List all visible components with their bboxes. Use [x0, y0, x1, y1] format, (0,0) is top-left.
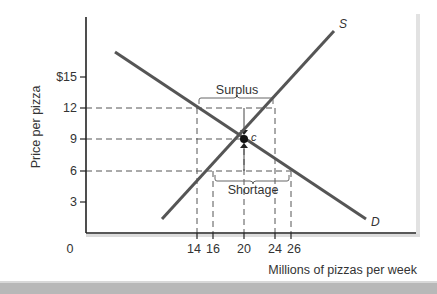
y-tick-label: 9 [70, 132, 77, 146]
y-tick-label: $15 [56, 70, 77, 84]
supply-demand-chart: $15 12 9 6 3 0 14 16 20 24 26 Millions o… [0, 0, 437, 294]
arrow-up-icon [240, 143, 248, 148]
x-axis-title: Millions of pizzas per week [268, 263, 417, 277]
y-ticks [80, 77, 86, 202]
guide-lines [86, 108, 291, 233]
shortage-label: Shortage [228, 183, 279, 197]
y-tick-label: 12 [63, 101, 77, 115]
panel-shadow-right [416, 14, 420, 236]
surplus-label: Surplus [216, 83, 258, 97]
x-tick-label: 24 [268, 242, 282, 256]
panel-shadow-bottom [86, 234, 420, 237]
x-tick-label: 14 [187, 242, 201, 256]
chart-panel: $15 12 9 6 3 0 14 16 20 24 26 Millions o… [0, 0, 437, 294]
y-tick-label: 6 [70, 164, 77, 178]
x-tick-label: 20 [237, 242, 251, 256]
x-tick-label: 26 [287, 242, 301, 256]
supply-label: S [339, 17, 347, 31]
origin-label: 0 [67, 242, 74, 256]
y-axis-title: Price per pizza [29, 86, 43, 169]
demand-label: D [371, 215, 380, 229]
x-tick-label: 16 [206, 242, 220, 256]
equilibrium-label: c [251, 131, 257, 143]
bottom-bar [0, 283, 437, 294]
y-tick-label: 3 [70, 195, 77, 209]
bottom-bar-edge [0, 281, 437, 283]
equilibrium-point [240, 135, 248, 143]
